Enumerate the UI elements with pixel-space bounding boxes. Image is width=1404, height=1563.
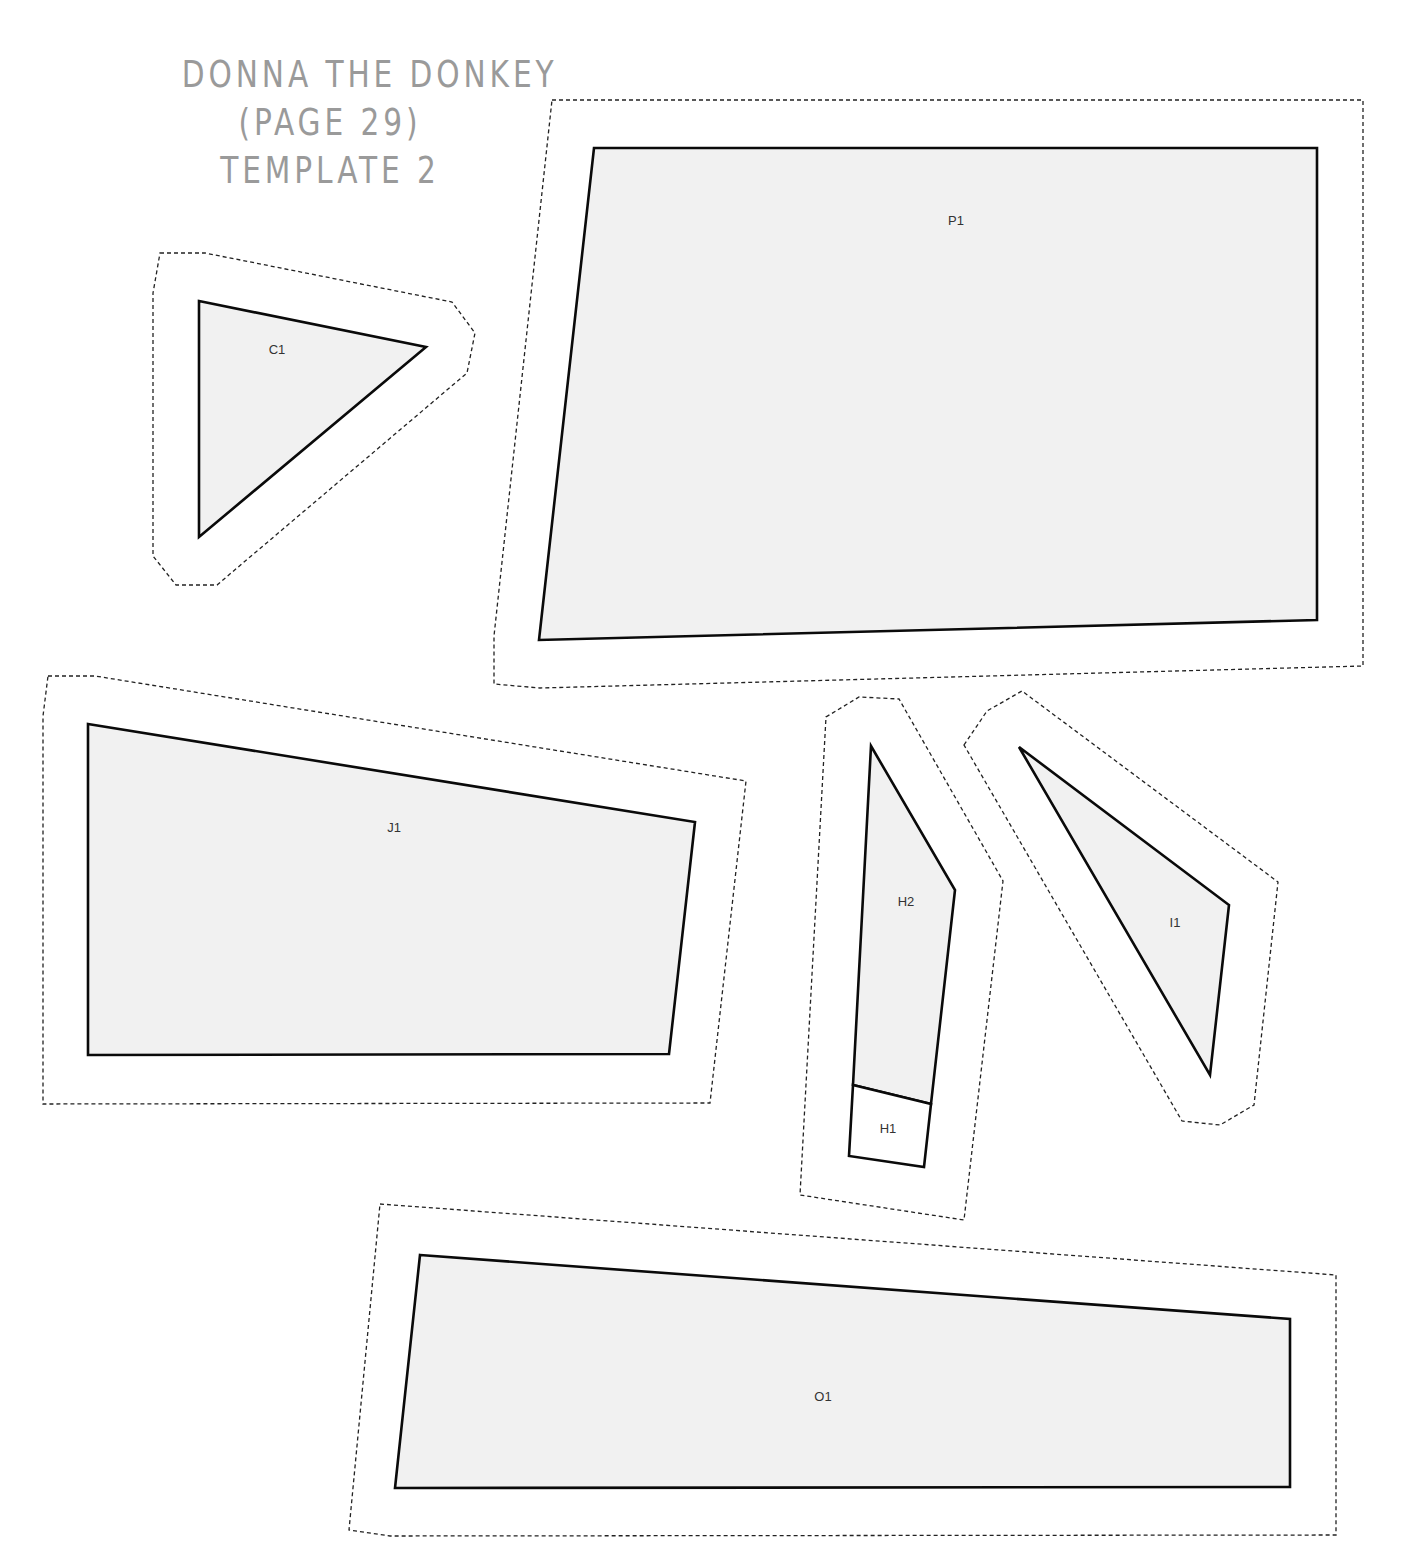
label-j1: J1 [387,820,401,835]
shape-i1 [1019,747,1229,1075]
piece-i1: I1 [964,691,1278,1125]
piece-j1: J1 [43,676,746,1104]
piece-h: H2 H1 [800,697,1003,1220]
label-h1: H1 [880,1121,897,1136]
shape-h2 [853,746,955,1104]
piece-c1: C1 [153,253,475,585]
shape-j1 [88,724,695,1055]
label-i1: I1 [1170,915,1181,930]
shape-o1 [395,1255,1290,1488]
template-sheet: C1 P1 J1 H2 H1 I1 O1 [0,0,1404,1563]
shape-p1 [539,148,1317,640]
label-o1: O1 [814,1389,831,1404]
piece-p1: P1 [494,100,1363,688]
label-h2: H2 [898,894,915,909]
shape-c1 [199,301,426,537]
piece-o1: O1 [349,1204,1336,1536]
label-p1: P1 [948,213,964,228]
label-c1: C1 [269,342,286,357]
